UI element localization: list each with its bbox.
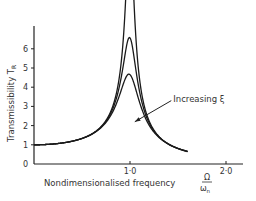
x-axis-label: Nondimensionalised frequency [44,178,175,188]
y-tick-label: 0 [23,160,28,169]
y-tick-label: 4 [23,83,28,92]
y-tick-label: 1 [23,141,28,150]
x-tick-label: 2·0 [220,167,233,176]
y-tick-label: 6 [23,45,28,54]
svg-text:Ω: Ω [204,173,210,182]
y-axis-label: Transmissibility TR [6,65,17,143]
x-tick-label: 1·0 [124,167,137,176]
arrowhead-icon [135,117,141,122]
y-tick-label: 5 [23,64,28,73]
x-axis-symbol: Ωωn [200,173,212,194]
transmissibility-chart: 01234561·02·0 Increasing ξ Transmissibil… [0,0,256,201]
curves [34,0,188,152]
curve-low-damping [34,0,188,152]
y-tick-label: 3 [23,102,28,111]
curve-medium-damping [34,38,188,152]
y-tick-label: 2 [23,122,28,131]
svg-text:ωn: ωn [200,184,211,194]
annotation-text: Increasing ξ [173,94,225,104]
